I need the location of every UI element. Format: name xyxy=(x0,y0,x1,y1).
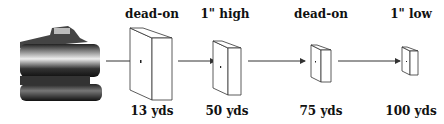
rifle-barrel-icon xyxy=(20,26,102,101)
target-1-top-label: dead-on xyxy=(117,7,187,21)
target-2-top-label: 1" high xyxy=(190,7,260,21)
target-box-100yds xyxy=(402,47,418,75)
target-3-distance: 75 yds xyxy=(286,104,356,118)
target-4-distance: 100 yds xyxy=(376,104,444,118)
target-box-75yds xyxy=(311,45,331,82)
target-2-distance: 50 yds xyxy=(192,104,262,118)
target-3-top-label: dead-on xyxy=(286,7,356,21)
target-box-50yds xyxy=(213,41,241,95)
target-4-top-label: 1" low xyxy=(376,7,444,21)
target-box-13yds xyxy=(130,28,172,100)
target-1-distance: 13 yds xyxy=(117,104,187,118)
